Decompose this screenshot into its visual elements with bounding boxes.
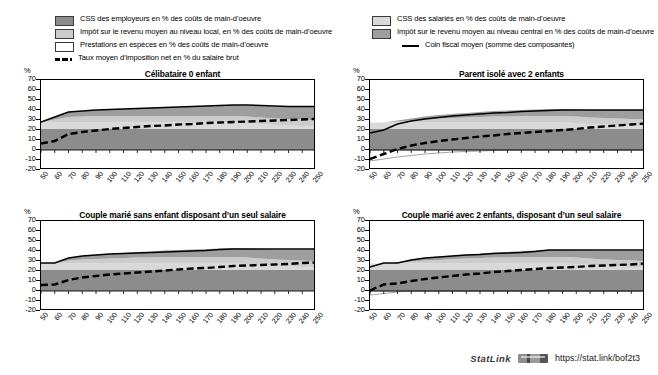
x-axis-tick-label: 60 xyxy=(53,170,64,181)
area-employer_ssc xyxy=(41,270,315,291)
y-axis-tick-label: 10 xyxy=(357,276,365,284)
x-axis-tick-label: 200 xyxy=(572,170,585,184)
legend-item-employer-ssc: CSS des employeurs en % des coûts de mai… xyxy=(55,14,355,26)
x-axis-tick-label: 70 xyxy=(395,170,406,181)
x-axis-tick-label: 230 xyxy=(613,311,626,325)
statlink-wordmark: StatLink xyxy=(470,353,511,364)
legend-item-employee-ssc: CSS des salariés en % des coûts de main-… xyxy=(372,14,658,26)
y-axis-tick-label: 20 xyxy=(357,266,365,274)
y-axis: 706050403020100-10-20 xyxy=(329,220,369,310)
x-axis-tick-label: 110 xyxy=(448,170,461,183)
legend-label-employee-ssc: CSS des salariés en % des coûts de main-… xyxy=(397,14,565,23)
x-axis-tick-label: 150 xyxy=(503,170,516,184)
x-axis-tick-label: 210 xyxy=(585,170,598,184)
x-axis-tick-label: 70 xyxy=(395,311,406,322)
legend-item-income-tax-central: Impôt sur le revenu moyen au niveau cent… xyxy=(372,27,658,39)
x-axis-tick-label: 80 xyxy=(409,170,420,181)
y-axis-tick-label: 60 xyxy=(357,85,365,93)
x-axis-tick-label: 50 xyxy=(368,311,379,322)
x-axis-tick-label: 110 xyxy=(448,311,461,324)
x-axis-tick-label: 80 xyxy=(80,311,91,322)
panel-title: Couple marié sans enfant disposant d’un … xyxy=(40,210,325,220)
x-axis-tick-label: 180 xyxy=(544,311,557,325)
chart-panel-couple-marie-2-enfants: % Couple marié avec 2 enfants, disposant… xyxy=(329,207,658,348)
x-axis-tick-label: 190 xyxy=(558,311,571,325)
x-axis-tick-label: 250 xyxy=(311,311,324,325)
y-axis-tick-label: 60 xyxy=(357,226,365,234)
x-axis-tick-label: 100 xyxy=(434,170,447,184)
x-axis-tick-label: 150 xyxy=(174,311,187,325)
x-axis-tick-label: 60 xyxy=(53,311,64,322)
x-axis-tick-label: 230 xyxy=(284,170,297,184)
x-axis-tick-label: 180 xyxy=(215,170,228,184)
legend-column-right: CSS des salariés en % des coûts de main-… xyxy=(372,14,658,52)
plot-area xyxy=(369,79,644,169)
plot-svg xyxy=(370,221,644,310)
y-axis-tick-label: 50 xyxy=(357,236,365,244)
legend-swatch-net-tax-rate-dashed-line xyxy=(55,55,72,63)
y-axis-tick-label: 50 xyxy=(28,95,36,103)
x-axis-tick-label: 170 xyxy=(201,311,214,325)
x-axis-tick-label: 240 xyxy=(298,170,311,184)
y-axis-tick-label: 50 xyxy=(28,236,36,244)
y-axis-tick-label: 20 xyxy=(28,125,36,133)
panel-title: Parent isolé avec 2 enfants xyxy=(369,69,654,79)
y-axis: 706050403020100-10-20 xyxy=(0,220,40,310)
legend-swatch-income-tax-local xyxy=(55,29,74,39)
panel-title: Célibataire 0 enfant xyxy=(40,69,325,79)
plot-area-wrapper xyxy=(369,79,644,169)
plot-area xyxy=(40,79,315,169)
x-axis-tick-label: 80 xyxy=(80,170,91,181)
x-axis-tick-label: 50 xyxy=(39,311,50,322)
x-axis-tick-label: 120 xyxy=(462,311,475,325)
plot-area-wrapper xyxy=(369,220,644,310)
plot-svg xyxy=(41,221,315,310)
legend-label-tax-wedge: Coin fiscal moyen (somme des composantes… xyxy=(425,40,575,49)
y-axis-tick-label: 70 xyxy=(357,75,365,83)
x-axis-tick-label: 110 xyxy=(119,311,132,324)
x-axis-tick-label: 70 xyxy=(66,311,77,322)
figure-root: CSS des employeurs en % des coûts de mai… xyxy=(0,0,658,375)
y-axis-tick-label: 10 xyxy=(28,276,36,284)
x-axis-tick-label: 180 xyxy=(215,311,228,325)
x-axis-tick-label: 170 xyxy=(530,170,543,184)
y-axis-tick-label: 30 xyxy=(357,256,365,264)
statlink-url[interactable]: https://stat.link/bof2t3 xyxy=(555,353,640,363)
x-axis-tick-label: 190 xyxy=(229,170,242,184)
x-axis-tick-label: 210 xyxy=(256,311,269,325)
x-axis-tick-label: 120 xyxy=(462,170,475,184)
chart-panel-parent-isole-2-enfants: % Parent isolé avec 2 enfants 7060504030… xyxy=(329,66,658,207)
y-axis-tick-label: 70 xyxy=(28,216,36,224)
chart-legend: CSS des employeurs en % des coûts de mai… xyxy=(0,14,658,66)
y-axis-tick-label: 70 xyxy=(357,216,365,224)
y-axis-tick-label: -20 xyxy=(25,306,36,314)
x-axis-tick-label: 140 xyxy=(160,311,173,325)
y-axis-tick-label: 70 xyxy=(28,75,36,83)
x-axis-tick-label: 110 xyxy=(119,170,132,183)
x-axis-tick-label: 220 xyxy=(270,311,283,325)
y-axis-tick-label: -20 xyxy=(25,165,36,173)
x-axis: 5060708090100110120130140150160170180190… xyxy=(40,170,315,204)
x-axis-tick-label: 90 xyxy=(94,311,105,322)
y-axis-tick-label: 20 xyxy=(28,266,36,274)
x-axis-tick-label: 210 xyxy=(585,311,598,325)
y-axis: 706050403020100-10-20 xyxy=(329,79,369,169)
plot-svg xyxy=(41,80,315,169)
x-axis-tick-label: 80 xyxy=(409,311,420,322)
y-axis-tick-label: 40 xyxy=(28,246,36,254)
x-axis-tick-label: 170 xyxy=(201,170,214,184)
x-axis-tick-label: 100 xyxy=(434,311,447,325)
x-axis-tick-label: 130 xyxy=(475,170,488,184)
panel-title: Couple marié avec 2 enfants, disposant d… xyxy=(369,210,654,220)
x-axis-tick-label: 50 xyxy=(368,170,379,181)
legend-swatch-income-tax-central xyxy=(372,29,391,39)
chart-panel-celibataire-0-enfant: % Célibataire 0 enfant 706050403020100-1… xyxy=(0,66,329,207)
statlink-badge-icon xyxy=(518,354,548,363)
x-axis-tick-label: 240 xyxy=(627,170,640,184)
x-axis-tick-label: 120 xyxy=(133,311,146,325)
x-axis-tick-label: 180 xyxy=(544,170,557,184)
x-axis-tick-label: 160 xyxy=(517,170,530,184)
x-axis-tick-label: 150 xyxy=(174,170,187,184)
y-axis-tick-label: -20 xyxy=(354,165,365,173)
plot-area xyxy=(40,220,315,310)
